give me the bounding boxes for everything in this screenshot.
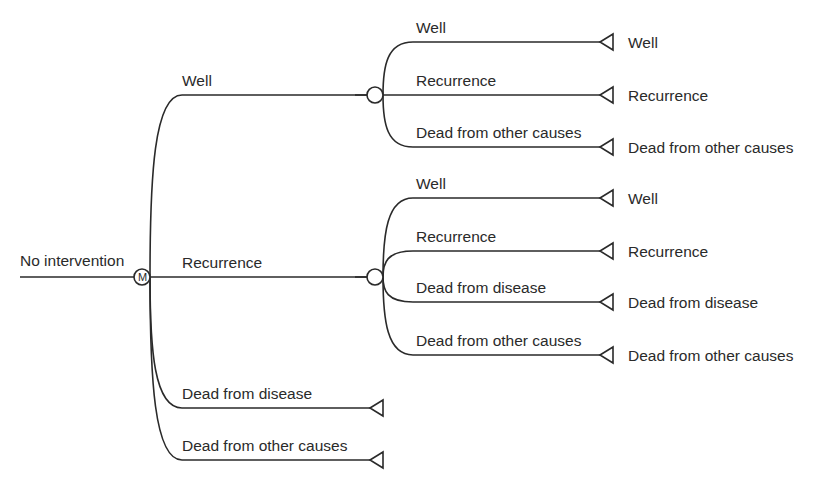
chance-branch-label: Recurrence xyxy=(416,228,496,245)
terminal-node-icon xyxy=(600,190,613,206)
chance-branch-label: Recurrence xyxy=(416,72,496,89)
markov-state-label: Dead from disease xyxy=(182,385,312,402)
chance-node-icon xyxy=(367,269,383,285)
terminal-label: Dead from other causes xyxy=(628,139,794,156)
terminal-label: Well xyxy=(628,34,658,51)
terminal-label: Dead from disease xyxy=(628,294,758,311)
chance-branch-label: Dead from other causes xyxy=(416,332,582,349)
chance-node-icon xyxy=(367,87,383,103)
chance-branch-label: Dead from other causes xyxy=(416,124,582,141)
chance-branch-edge xyxy=(383,251,600,277)
markov-state-label: Recurrence xyxy=(182,254,262,271)
chance-branch-label: Dead from disease xyxy=(416,279,546,296)
terminal-node-icon xyxy=(600,294,613,310)
terminal-node-icon xyxy=(600,87,613,103)
terminal-node-icon xyxy=(600,243,613,259)
terminal-label: Well xyxy=(628,190,658,207)
decision-tree-diagram: No interventionWellWellWellRecurrenceRec… xyxy=(0,0,837,482)
markov-state-label: Well xyxy=(182,72,212,89)
terminal-node-icon xyxy=(370,452,383,468)
markov-state-edge xyxy=(150,277,370,460)
terminal-node-icon xyxy=(600,34,613,50)
markov-state-edge xyxy=(150,95,367,277)
terminal-label: Recurrence xyxy=(628,87,708,104)
chance-branch-label: Well xyxy=(416,175,446,192)
terminal-label: Recurrence xyxy=(628,243,708,260)
root-label: No intervention xyxy=(20,252,124,269)
tree-labels: No interventionWellWellWellRecurrenceRec… xyxy=(20,19,794,454)
terminal-label: Dead from other causes xyxy=(628,347,794,364)
terminal-node-icon xyxy=(370,400,383,416)
markov-state-label: Dead from other causes xyxy=(182,437,348,454)
terminal-node-icon xyxy=(600,347,613,363)
markov-node-symbol: M xyxy=(138,271,147,283)
terminal-node-icon xyxy=(600,139,613,155)
chance-branch-label: Well xyxy=(416,19,446,36)
